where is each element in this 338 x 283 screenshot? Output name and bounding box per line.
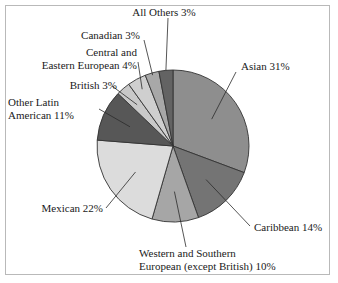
slice-label-mexican: Mexican 22%	[6, 202, 103, 215]
slice-label-central-eastern-european-line1: Central and	[6, 46, 137, 59]
slice-label-other-latin-american: Other Latin American 11%	[8, 96, 118, 121]
slice-label-western-southern-european-line2: European (except British) 10%	[139, 260, 335, 273]
slice-label-other-latin-american-line2: American 11%	[8, 109, 118, 122]
slice-label-western-southern-european: Western and Southern European (except Br…	[139, 247, 335, 272]
slice-label-caribbean: Caribbean 14%	[254, 221, 336, 234]
slice-label-mexican-text: Mexican 22%	[42, 202, 103, 214]
pie-chart-figure: All Others 3% Canadian 3% Central and Ea…	[0, 0, 338, 283]
pie-slices-group	[97, 70, 249, 222]
slice-label-caribbean-text: Caribbean 14%	[254, 221, 322, 233]
slice-label-all-others: All Others 3%	[103, 6, 225, 19]
slice-label-central-eastern-european: Central and Eastern European 4%	[6, 46, 137, 71]
slice-label-other-latin-american-line1: Other Latin	[8, 96, 118, 109]
slice-label-central-eastern-european-line2: Eastern European 4%	[6, 59, 137, 72]
slice-label-asian: Asian 31%	[241, 60, 333, 73]
pie-chart-graphic	[0, 0, 338, 283]
slice-label-british: British 3%	[6, 79, 117, 92]
leader-line-canadian	[144, 40, 153, 75]
slice-label-all-others-text: All Others 3%	[132, 6, 196, 18]
slice-label-canadian: Canadian 3%	[18, 29, 140, 42]
slice-label-asian-text: Asian 31%	[241, 60, 290, 72]
slice-label-british-text: British 3%	[70, 79, 117, 91]
slice-label-canadian-text: Canadian 3%	[81, 29, 140, 41]
leader-line-all-others	[166, 18, 168, 70]
slice-label-western-southern-european-line1: Western and Southern	[139, 247, 335, 260]
